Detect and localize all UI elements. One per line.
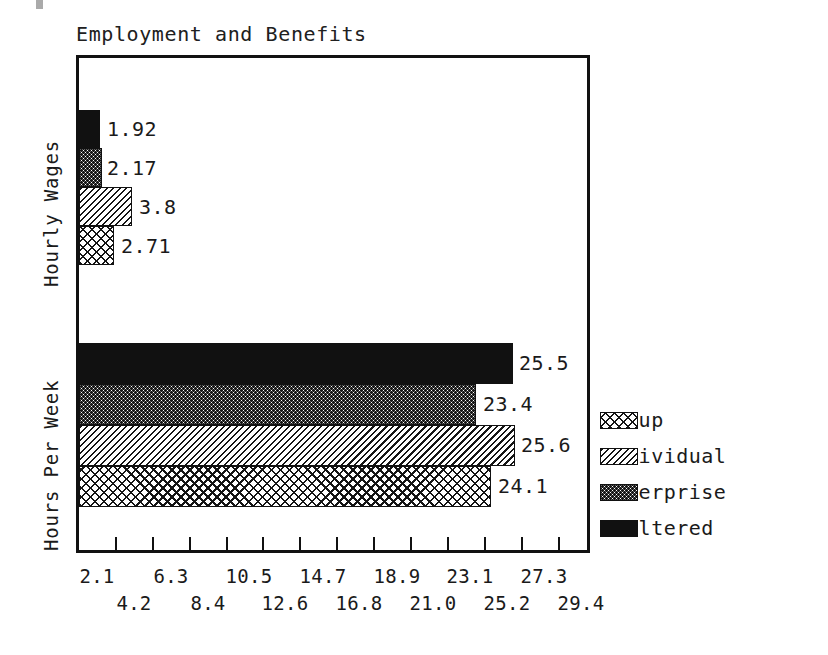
- legend-swatch-individual-icon: [600, 448, 638, 465]
- axis-label-hourly-wages: Hourly Wages: [40, 140, 62, 287]
- xtick-mark: [115, 537, 117, 551]
- xtick-mark: [226, 537, 228, 551]
- xtick-label: 18.9: [374, 565, 421, 587]
- xtick-label: 29.4: [558, 592, 605, 614]
- bar-wages-group[interactable]: [79, 226, 114, 265]
- xtick-label: 25.2: [484, 592, 531, 614]
- legend-item-individual[interactable]: Individual: [600, 444, 726, 468]
- xtick-mark: [521, 537, 523, 551]
- xtick-label: 14.7: [300, 565, 347, 587]
- bar-value-wages-enterprise: 2.17: [107, 158, 157, 178]
- bar-hours-enterprise[interactable]: [79, 384, 476, 425]
- xtick-mark: [373, 537, 375, 551]
- bar-value-hours-enterprise: 23.4: [483, 394, 533, 414]
- xtick-mark: [299, 537, 301, 551]
- xtick-mark: [447, 537, 449, 551]
- xtick-label: 10.5: [226, 565, 273, 587]
- chart-container: Employment and Benefits Hourly Wages Hou…: [0, 0, 828, 655]
- bar-value-wages-sheltered: 1.92: [107, 119, 157, 139]
- axis-label-hours-per-week: Hours Per Week: [40, 380, 62, 551]
- bar-hours-sheltered[interactable]: [79, 343, 513, 384]
- scan-artifact: [36, 0, 43, 9]
- xtick-mark: [484, 537, 486, 551]
- xtick-label: 27.3: [521, 565, 568, 587]
- xtick-label: 16.8: [336, 592, 383, 614]
- xtick-label: 8.4: [190, 592, 225, 614]
- xtick-label: 4.2: [116, 592, 151, 614]
- xtick-label: 23.1: [447, 565, 494, 587]
- legend-swatch-sheltered-icon: [600, 520, 638, 537]
- plot-area: 1.92 2.17 3.8 2.71 25.5 23.4 25.6 24.1: [79, 58, 587, 550]
- bar-value-hours-group: 24.1: [498, 476, 548, 496]
- legend-item-enterprise[interactable]: Enterprise: [600, 480, 726, 504]
- xtick-label: 12.6: [262, 592, 309, 614]
- bar-value-hours-sheltered: 25.5: [519, 353, 569, 373]
- xtick-mark: [152, 537, 154, 551]
- xtick-mark: [336, 537, 338, 551]
- xtick-label: 6.3: [153, 565, 188, 587]
- xtick-label: 2.1: [79, 565, 114, 587]
- bar-wages-individual[interactable]: [79, 187, 132, 226]
- xtick-mark: [262, 537, 264, 551]
- bar-wages-sheltered[interactable]: [79, 110, 100, 148]
- legend-swatch-group-icon: [600, 412, 638, 429]
- bar-hours-group[interactable]: [79, 466, 491, 507]
- bar-hours-individual[interactable]: [79, 425, 515, 466]
- legend-item-group[interactable]: Group: [600, 408, 664, 432]
- xtick-mark: [558, 537, 560, 551]
- bar-value-wages-individual: 3.8: [139, 197, 177, 217]
- bar-value-wages-group: 2.71: [121, 236, 171, 256]
- bar-wages-enterprise[interactable]: [79, 148, 102, 187]
- chart-title: Employment and Benefits: [76, 22, 367, 46]
- xtick-label: 21.0: [410, 592, 457, 614]
- legend-item-sheltered[interactable]: Sheltered: [600, 516, 714, 540]
- xtick-mark: [189, 537, 191, 551]
- legend-swatch-enterprise-icon: [600, 484, 638, 501]
- bar-value-hours-individual: 25.6: [521, 435, 571, 455]
- xtick-mark: [410, 537, 412, 551]
